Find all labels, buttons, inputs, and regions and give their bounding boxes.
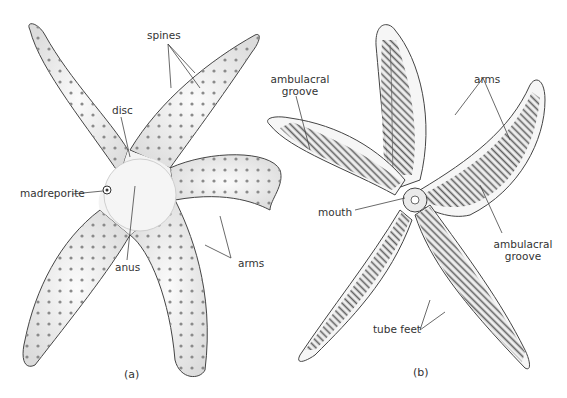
label-anus: anus <box>115 261 140 273</box>
label-mouth: mouth <box>318 206 352 218</box>
label-line1: ambulacral <box>271 73 330 85</box>
starfish-a-aboral <box>23 24 281 377</box>
label-arms-a: arms <box>238 257 264 269</box>
central-disc <box>104 159 176 231</box>
label-disc: disc <box>112 104 133 116</box>
label-spines: spines <box>147 29 181 41</box>
mouth <box>411 196 419 204</box>
label-ambulacral-groove-right: ambulacral groove <box>492 238 554 262</box>
label-madreporite: madreporite <box>20 187 85 199</box>
label-arms-b: arms <box>474 73 500 85</box>
label-line2: groove <box>505 250 541 262</box>
label-ambulacral-groove-top: ambulacral groove <box>270 73 330 97</box>
starfish-diagram <box>0 0 567 398</box>
caption-b: (b) <box>413 366 429 379</box>
label-line1: ambulacral <box>494 238 553 250</box>
label-line2: groove <box>282 85 318 97</box>
caption-a: (a) <box>124 368 139 381</box>
label-tube-feet: tube feet <box>373 323 421 335</box>
